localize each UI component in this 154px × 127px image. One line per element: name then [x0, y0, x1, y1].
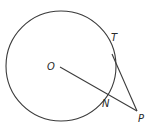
- label-o: O: [47, 61, 55, 72]
- label-t: T: [111, 32, 118, 43]
- label-n: N: [102, 98, 110, 109]
- circle: [6, 11, 116, 121]
- segment-op: [60, 67, 137, 111]
- segment-tp: [112, 54, 137, 111]
- label-p: P: [138, 113, 145, 124]
- circle-tangent-diagram: O T N P: [0, 0, 154, 127]
